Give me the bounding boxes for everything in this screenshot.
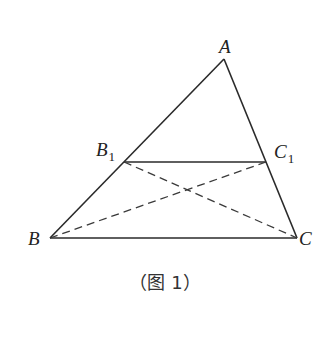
label-C1: C1: [274, 141, 294, 166]
label-A: A: [217, 36, 231, 57]
segment-BC1-dashed: [50, 162, 266, 238]
triangle-figure: A B1 C1 B C （图 1）: [0, 0, 331, 349]
label-C1-subscript: 1: [288, 151, 295, 166]
label-B: B: [28, 228, 40, 249]
label-C: C: [299, 228, 312, 249]
figure-caption: （图 1）: [129, 272, 200, 293]
label-B1: B1: [96, 139, 115, 164]
label-C1-main: C: [274, 141, 287, 162]
label-B1-subscript: 1: [109, 149, 116, 164]
segment-AB: [50, 59, 224, 238]
label-B1-main: B: [96, 139, 108, 160]
